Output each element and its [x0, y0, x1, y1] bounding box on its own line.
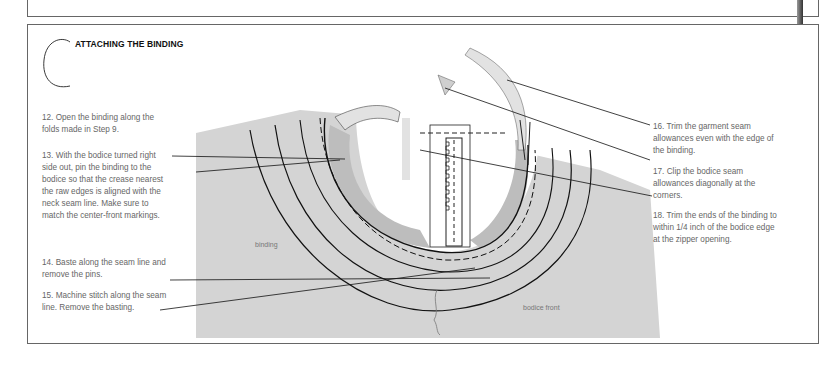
step-15: 15. Machine stitch along the seam line. …: [42, 290, 168, 314]
step-18: 18. Trim the ends of the binding to with…: [653, 210, 778, 246]
binding-label: binding: [255, 241, 278, 248]
bodice-front-label: bodice front: [523, 304, 560, 311]
step-17: 17. Clip the bodice seam allowances diag…: [653, 166, 778, 202]
step-13: 13. With the bodice turned right side ou…: [42, 150, 168, 222]
step-12: 12. Open the binding along the folds mad…: [42, 112, 168, 136]
step-16: 16. Trim the garment seam allowances eve…: [653, 121, 778, 157]
step-14: 14. Baste along the seam line and remove…: [42, 257, 168, 281]
